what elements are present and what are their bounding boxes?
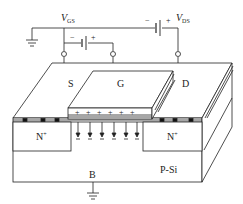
body-label: B (89, 170, 96, 180)
vds-positive-sign: + (166, 17, 171, 25)
drain-label: D (182, 79, 189, 89)
source-label: S (68, 79, 74, 89)
gate-terminal-icon (111, 52, 116, 57)
gate-charge-signs: ++++++ (75, 109, 141, 117)
vds-negative-sign: − (145, 17, 150, 25)
n-plus-right-label: N+ (167, 131, 178, 142)
vgs-label: VGS (61, 13, 75, 24)
battery-icon-vgs (82, 36, 86, 50)
source-terminal-icon (62, 52, 67, 57)
gate-label: G (117, 79, 124, 89)
ground-icon-top (26, 28, 38, 46)
substrate-label: P-Si (160, 165, 177, 175)
vds-label: VDS (176, 13, 190, 24)
n-plus-left-label: N+ (36, 131, 47, 142)
vgs-positive-sign: + (91, 34, 96, 42)
vgs-negative-sign: − (70, 34, 75, 42)
ground-icon-body (87, 182, 99, 199)
drain-terminal-icon (176, 52, 181, 57)
mosfet-diagram: VGS VDS − + − + S G D ++++++ N+ N+ P-Si … (0, 0, 243, 204)
mosfet-drawing (0, 0, 243, 204)
battery-icon-vds (156, 20, 160, 36)
